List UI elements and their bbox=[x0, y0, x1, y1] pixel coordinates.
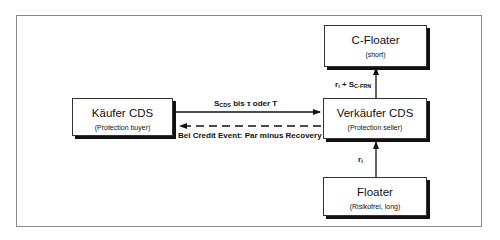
node-cfloater: C-Floater (short) bbox=[324, 25, 427, 67]
node-subtitle: (Risikofrei, long) bbox=[324, 202, 426, 211]
floater-flow-label: ri bbox=[358, 155, 363, 164]
node-buyer: Käufer CDS (Protection buyer) bbox=[72, 98, 173, 136]
node-seller: Verkäufer CDS (Protection seller) bbox=[323, 98, 427, 139]
cfloater-flow-label: ri + SC-FRN bbox=[335, 80, 371, 89]
node-subtitle: (Protection buyer) bbox=[73, 123, 172, 132]
node-title: Floater bbox=[324, 186, 426, 199]
node-title: Verkäufer CDS bbox=[324, 107, 426, 120]
node-subtitle: (short) bbox=[325, 50, 426, 59]
node-title: C-Floater bbox=[325, 34, 426, 47]
premium-label: SCDS bis τ oder T bbox=[214, 99, 277, 108]
credit-event-label: Bei Credit Event: Par minus Recovery bbox=[178, 131, 322, 140]
node-title: Käufer CDS bbox=[73, 107, 172, 120]
node-subtitle: (Protection seller) bbox=[324, 123, 426, 132]
node-floater: Floater (Risikofrei, long) bbox=[323, 177, 427, 216]
